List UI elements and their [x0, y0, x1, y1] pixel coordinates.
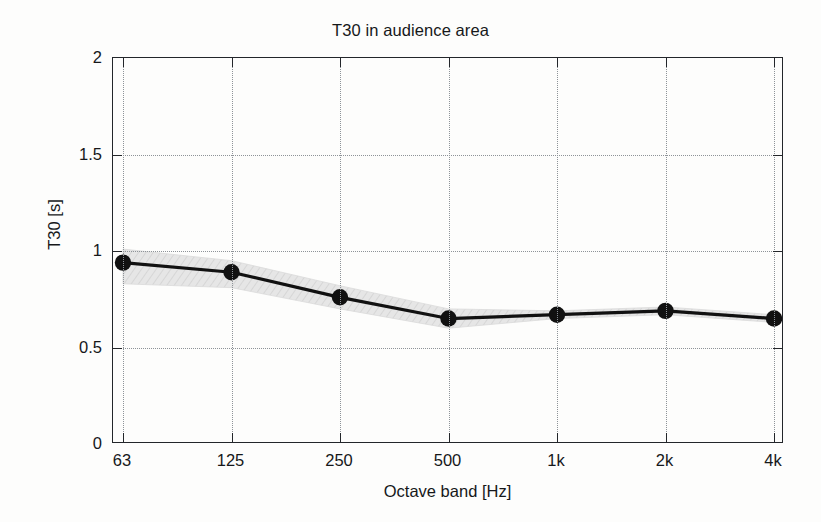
y-tick-mark: [113, 155, 122, 156]
x-tick-label-250: 250: [325, 451, 353, 470]
x-tick-mark: [666, 433, 667, 442]
x-gridline: [557, 58, 558, 442]
x-tick-mark: [557, 433, 558, 442]
x-tick-mark: [557, 58, 558, 67]
x-tick-label-63: 63: [113, 451, 131, 470]
x-tick-mark: [666, 58, 667, 67]
x-gridline: [340, 58, 341, 442]
x-tick-mark: [774, 433, 775, 442]
chart-title: T30 in audience area: [0, 21, 821, 40]
y-tick-mark: [773, 348, 782, 349]
y-tick-mark: [773, 251, 782, 252]
y-tick-mark: [773, 155, 782, 156]
x-tick-mark: [123, 58, 124, 67]
y-tick-label-0: 0: [46, 434, 102, 453]
x-gridline: [123, 58, 124, 442]
x-tick-mark: [774, 58, 775, 67]
x-tick-mark: [232, 58, 233, 67]
plot-inner: [113, 58, 782, 442]
x-gridline: [774, 58, 775, 442]
x-tick-label-2k: 2k: [656, 451, 673, 470]
x-tick-label-125: 125: [217, 451, 245, 470]
x-tick-mark: [449, 58, 450, 67]
y-gridline: [113, 251, 782, 252]
data-series-layer: [113, 58, 782, 442]
x-tick-mark: [123, 433, 124, 442]
x-tick-mark: [340, 58, 341, 67]
x-tick-label-4k: 4k: [764, 451, 781, 470]
x-tick-mark: [232, 433, 233, 442]
y-tick-mark: [113, 348, 122, 349]
y-tick-label-1.5: 1.5: [46, 144, 102, 163]
x-tick-label-500: 500: [434, 451, 462, 470]
x-gridline: [449, 58, 450, 442]
y-gridline: [113, 155, 782, 156]
y-gridline: [113, 348, 782, 349]
x-gridline: [666, 58, 667, 442]
x-tick-mark: [449, 433, 450, 442]
x-tick-label-1k: 1k: [547, 451, 564, 470]
x-gridline: [232, 58, 233, 442]
y-axis-label: T30 [s]: [45, 155, 64, 295]
chart-figure: T30 in audience area Octave band [Hz] T3…: [0, 0, 821, 522]
y-tick-label-1: 1: [46, 241, 102, 260]
plot-area: [112, 57, 783, 443]
x-tick-mark: [340, 433, 341, 442]
y-tick-mark: [113, 251, 122, 252]
y-tick-label-2: 2: [46, 48, 102, 67]
x-axis-label: Octave band [Hz]: [112, 482, 783, 501]
y-tick-label-0.5: 0.5: [46, 337, 102, 356]
